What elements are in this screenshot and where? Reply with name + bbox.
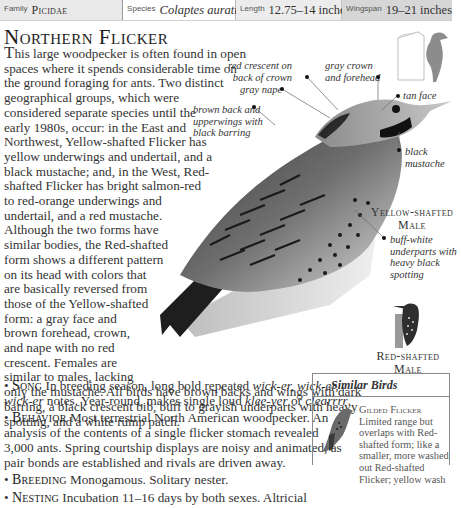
caption-yellow-shafted-male: Yellow-shafted Male — [370, 206, 454, 232]
annotation-gray-crown: gray crown and forehead — [325, 60, 380, 83]
annotation-dot — [382, 236, 386, 240]
annotation-buff-white-underparts: buff-white underparts with heavy black s… — [390, 234, 457, 280]
similar-bird-text: Limited range but — [359, 416, 445, 428]
similar-bird-text: smaller, more washed — [359, 450, 445, 462]
annotation-line: red crescent on — [228, 60, 292, 72]
species-label: Species — [127, 4, 155, 13]
similar-bird-text: Flicker; yellow wash — [359, 474, 445, 486]
length-label: Length — [240, 4, 264, 13]
annotation-line: gray crown — [325, 60, 380, 72]
fact-text: or — [288, 393, 306, 408]
fact-text: In breeding season, long bold repeated — [45, 378, 252, 393]
family-label: Family — [4, 4, 28, 13]
fact-text: pair bonds are established and rivals ar… — [4, 456, 304, 471]
annotation-line: underparts with — [390, 246, 457, 258]
fact-heading: Breeding — [12, 472, 67, 487]
fact-text: Incubation 11–16 days by both sexes. Alt… — [59, 490, 307, 505]
fact-text: notes. Year-round, makes single loud — [44, 393, 246, 408]
annotation-line: back of crown — [228, 72, 292, 84]
species-cell: Species Colaptes auratus — [123, 0, 236, 20]
fact-text: 3,000 ants. Spring courtship displays ar… — [4, 441, 304, 456]
annotation-brown-back: brown back and upperwings with black bar… — [193, 104, 263, 139]
similar-bird-text: overlaps with Red- — [359, 427, 445, 439]
fact-heading: Behavior — [12, 410, 67, 425]
annotation-red-crescent: red crescent on back of crown — [228, 60, 292, 83]
fact-heading: Nesting — [12, 490, 59, 505]
annotation-tan-face: tan face — [403, 90, 437, 102]
similar-bird-text: shafted form; like a — [359, 439, 445, 451]
fact-text: analysis of the contents of a single fli… — [4, 426, 304, 441]
length-cell: Length 12.75–14 inches — [236, 0, 342, 20]
similar-birds-heading: Similar Birds — [313, 374, 449, 397]
annotation-dot — [396, 94, 400, 98]
annotation-gray-nape: gray nape — [240, 84, 282, 96]
page-title: Northern Flicker — [4, 26, 168, 48]
wingspan-cell: Wingspan 19–21 inches — [342, 0, 452, 20]
annotation-line: black — [405, 146, 445, 158]
gilded-flicker-illustration — [319, 405, 355, 453]
annotation-line: buff-white — [390, 234, 457, 246]
annotation-dot — [252, 105, 256, 109]
species-info-header: Family Picidae Species Colaptes auratus … — [0, 0, 452, 21]
fact-breeding: • Breeding Monogamous. Solitary nester. — [4, 473, 304, 488]
fact-heading: Song — [12, 378, 42, 393]
drop-cap: T — [4, 43, 14, 62]
annotation-dot — [280, 87, 284, 91]
caption-line: Male — [370, 219, 454, 232]
facts-section: • Song In breeding season, long bold rep… — [4, 379, 304, 509]
call-text: klee-yer — [245, 393, 287, 408]
similar-birds-box: Similar Birds Gilded Flicker Limited ran… — [312, 373, 450, 465]
annotation-line: spotting — [390, 269, 457, 281]
annotation-line: and forehead — [325, 72, 380, 84]
text-line: his large woodpecker is often found in o… — [14, 46, 246, 61]
similar-bird-text: out Red-shafted — [359, 462, 445, 474]
annotation-dot — [376, 75, 380, 79]
annotation-line: mustache — [405, 158, 445, 170]
family-cell: Family Picidae — [0, 0, 123, 20]
species-value: Colaptes auratus — [160, 3, 246, 18]
fact-behavior: • Behavior Most terrestrial North Americ… — [4, 411, 304, 470]
wingspan-label: Wingspan — [346, 4, 382, 13]
annotation-line: heavy black — [390, 257, 457, 269]
annotation-dot — [305, 75, 309, 79]
fact-text: Monogamous. Solitary nester. — [67, 472, 229, 487]
annotation-line: black barring — [193, 127, 263, 139]
family-value: Picidae — [32, 3, 68, 18]
fact-text: Most terrestrial North American woodpeck… — [67, 410, 329, 425]
fact-nesting: • Nesting Incubation 11–16 days by both … — [4, 491, 304, 506]
wingspan-value: 19–21 inches — [386, 3, 452, 18]
length-value: 12.75–14 inches — [269, 3, 351, 18]
annotation-dot — [397, 148, 401, 152]
similar-bird-name: Gilded Flicker — [359, 404, 445, 416]
fact-song: • Song In breeding season, long bold rep… — [4, 379, 304, 408]
similar-bird-item: Gilded Flicker Limited range but overlap… — [313, 397, 449, 485]
red-shafted-flicker-illustration — [393, 300, 423, 348]
annotation-line: upperwings with — [193, 116, 263, 128]
call-text: wick-er — [4, 393, 44, 408]
annotation-black-mustache: black mustache — [405, 146, 445, 169]
